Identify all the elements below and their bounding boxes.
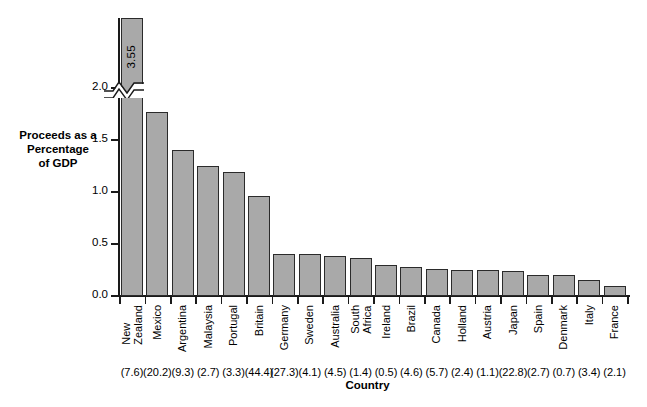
x-axis-tick bbox=[475, 297, 477, 304]
x-axis-tick bbox=[627, 297, 629, 304]
x-axis-category-label: Japan bbox=[508, 305, 520, 335]
x-axis-category-label: Britain bbox=[254, 305, 266, 336]
bar-value-label: 3.55 bbox=[125, 45, 137, 69]
x-axis-category-label: Denmark bbox=[558, 305, 570, 350]
y-axis-tick-label: 0.5 bbox=[74, 237, 108, 248]
x-axis-category-label: Portugal bbox=[228, 305, 240, 346]
x-axis-tick bbox=[297, 297, 299, 304]
bar[interactable] bbox=[375, 265, 397, 296]
bar[interactable] bbox=[273, 254, 295, 296]
x-axis-tick bbox=[246, 297, 248, 304]
x-axis-category-label: Ireland bbox=[381, 305, 393, 339]
x-axis-category-label: Mexico bbox=[152, 305, 164, 340]
x-axis-tick bbox=[348, 297, 350, 304]
x-axis-category-label: Canada bbox=[431, 305, 443, 344]
y-axis-break-icon bbox=[104, 78, 144, 98]
x-axis-tick bbox=[373, 297, 375, 304]
y-axis-tick-label-text: 0.5 bbox=[74, 237, 108, 248]
y-axis-tick bbox=[111, 191, 118, 193]
bar[interactable] bbox=[350, 258, 372, 296]
bar[interactable] bbox=[477, 270, 499, 296]
x-axis-title-text: Country bbox=[345, 379, 389, 391]
y-axis-tick-label-text: 0.0 bbox=[74, 289, 108, 300]
y-axis-tick bbox=[111, 243, 118, 245]
x-axis-category-label: France bbox=[609, 305, 621, 339]
bar[interactable] bbox=[604, 286, 626, 296]
bar-chart: Proceeds as a Percentage of GDP 0.00.51.… bbox=[0, 0, 647, 407]
y-axis-title-line-2: Percentage bbox=[6, 142, 110, 156]
bar[interactable] bbox=[527, 275, 549, 296]
bar[interactable] bbox=[451, 270, 473, 296]
x-axis-category-label: Holland bbox=[457, 305, 469, 342]
bar[interactable] bbox=[146, 112, 168, 296]
bar[interactable] bbox=[299, 254, 321, 296]
bar[interactable] bbox=[248, 196, 270, 296]
x-axis-tick bbox=[221, 297, 223, 304]
y-axis-tick-label-text: 2.0 bbox=[74, 81, 108, 92]
x-axis-tick bbox=[576, 297, 578, 304]
y-axis-tick-label-text: 1.0 bbox=[74, 185, 108, 196]
bar[interactable] bbox=[400, 267, 422, 296]
x-axis-tick bbox=[602, 297, 604, 304]
y-axis-line bbox=[118, 18, 120, 296]
bar[interactable] bbox=[324, 256, 346, 296]
x-axis-category-label: Sweden bbox=[304, 305, 316, 345]
x-axis-tick bbox=[449, 297, 451, 304]
x-axis-category-label: Italy bbox=[584, 305, 596, 325]
x-axis-tick bbox=[424, 297, 426, 304]
bar[interactable]: 3.55 bbox=[121, 18, 143, 296]
x-axis-tick bbox=[500, 297, 502, 304]
bar[interactable] bbox=[553, 275, 575, 296]
bar[interactable] bbox=[223, 172, 245, 296]
x-axis-category-label: New Zealand bbox=[121, 305, 144, 345]
x-axis-tick bbox=[322, 297, 324, 304]
x-axis-tick bbox=[399, 297, 401, 304]
x-axis-tick bbox=[551, 297, 553, 304]
y-axis-tick-label-text: 1.5 bbox=[74, 133, 108, 144]
bar[interactable] bbox=[502, 271, 524, 296]
y-axis-tick-label: 0.0 bbox=[74, 289, 108, 300]
x-axis-category-label: Brazil bbox=[406, 305, 418, 333]
x-axis-category-label: Australia bbox=[330, 305, 342, 348]
y-axis-tick-label: 1.5 bbox=[74, 133, 108, 144]
y-axis-tick bbox=[111, 295, 118, 297]
y-axis-tick-label: 1.0 bbox=[74, 185, 108, 196]
x-axis-category-label: Argentina bbox=[177, 305, 189, 352]
y-axis-tick bbox=[111, 139, 118, 141]
x-axis-tick bbox=[272, 297, 274, 304]
x-axis-category-label: Germany bbox=[279, 305, 291, 350]
bar[interactable] bbox=[172, 150, 194, 296]
y-axis-title-line-3: of GDP bbox=[6, 156, 110, 170]
bar[interactable] bbox=[197, 166, 219, 296]
x-axis-category-label: South Africa bbox=[350, 305, 373, 334]
x-axis-tick bbox=[526, 297, 528, 304]
y-axis-tick-label: 2.0 bbox=[74, 81, 108, 92]
x-axis-category-label: Malaysia bbox=[203, 305, 215, 348]
x-axis-category-label: Spain bbox=[533, 305, 545, 333]
bar[interactable] bbox=[578, 280, 600, 296]
x-axis-title: Country bbox=[0, 379, 647, 391]
x-axis-tick bbox=[145, 297, 147, 304]
x-axis-category-label: Austria bbox=[482, 305, 494, 339]
x-axis-tick bbox=[195, 297, 197, 304]
x-axis-tick bbox=[170, 297, 172, 304]
x-axis-tick bbox=[119, 297, 121, 304]
x-axis-secondary-value: (2.1) bbox=[595, 366, 635, 378]
bar[interactable] bbox=[426, 269, 448, 296]
